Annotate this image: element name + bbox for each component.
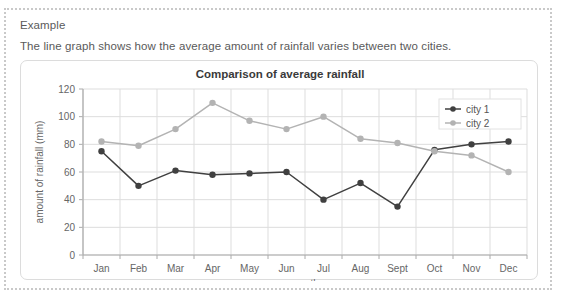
y-tick-label: 120 [58, 84, 75, 95]
data-point-2 [431, 148, 437, 154]
data-point-1 [246, 170, 252, 176]
example-container: Example The line graph shows how the ave… [4, 8, 552, 290]
x-tick-label: Aug [352, 263, 370, 274]
data-point-2 [283, 126, 289, 132]
data-point-1 [357, 180, 363, 186]
intro-text: The line graph shows how the average amo… [20, 40, 451, 52]
y-tick-label: 40 [64, 194, 76, 205]
x-tick-label: Apr [205, 263, 221, 274]
legend-marker-2 [450, 120, 456, 126]
data-point-2 [468, 152, 474, 158]
data-point-1 [172, 167, 178, 173]
x-tick-label: Nov [463, 263, 481, 274]
data-point-1 [468, 141, 474, 147]
x-tick-label: Dec [500, 263, 518, 274]
x-tick-label: May [240, 263, 259, 274]
data-point-2 [172, 126, 178, 132]
data-point-2 [320, 113, 326, 119]
data-point-2 [505, 169, 511, 175]
data-point-2 [135, 143, 141, 149]
y-tick-label: 0 [69, 250, 75, 261]
x-tick-label: Jul [317, 263, 330, 274]
y-tick-label: 20 [64, 222, 76, 233]
chart-panel: Comparison of average rainfall 020406080… [20, 60, 538, 280]
data-point-1 [394, 203, 400, 209]
x-tick-label: Sept [387, 263, 408, 274]
data-point-2 [209, 100, 215, 106]
x-tick-label: Jan [93, 263, 109, 274]
data-point-2 [246, 118, 252, 124]
x-tick-label: Feb [130, 263, 148, 274]
data-point-2 [98, 138, 104, 144]
data-point-1 [98, 148, 104, 154]
line-chart: 020406080100120JanFebMarAprMayJunJulAugS… [21, 61, 539, 281]
y-tick-label: 80 [64, 139, 76, 150]
data-point-1 [283, 169, 289, 175]
data-point-1 [320, 196, 326, 202]
chart-svg: 020406080100120JanFebMarAprMayJunJulAugS… [21, 61, 539, 281]
legend-marker-1 [450, 106, 456, 112]
data-point-1 [135, 183, 141, 189]
y-tick-label: 100 [58, 111, 75, 122]
x-axis-title: month [291, 278, 319, 281]
x-tick-label: Oct [427, 263, 443, 274]
y-tick-label: 60 [64, 167, 76, 178]
data-point-2 [394, 140, 400, 146]
data-point-2 [357, 136, 363, 142]
data-point-1 [505, 138, 511, 144]
x-tick-label: Jun [278, 263, 294, 274]
legend-label-2: city 2 [466, 118, 490, 129]
y-axis-title: amount of rainfall (mm) [34, 121, 45, 224]
example-label: Example [20, 19, 65, 31]
data-point-1 [209, 172, 215, 178]
legend-label-1: city 1 [466, 104, 490, 115]
x-tick-label: Mar [167, 263, 185, 274]
